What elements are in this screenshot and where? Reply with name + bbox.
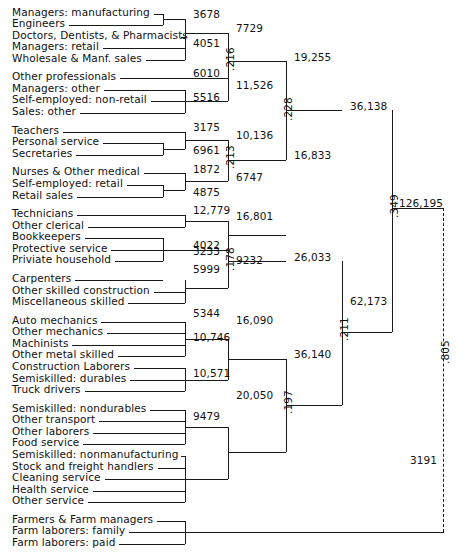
merge-out-9232 bbox=[185, 288, 228, 289]
root-bar-dashed bbox=[443, 208, 444, 532]
merge-out-7729 bbox=[185, 33, 228, 34]
node-value-26033: 26,033 bbox=[294, 252, 331, 263]
node-value-4875: 4875 bbox=[193, 187, 220, 198]
leaf-connector-line bbox=[83, 444, 185, 445]
node-value-20050: 20,050 bbox=[236, 390, 273, 401]
merge-out-36140 bbox=[286, 405, 342, 406]
correlation-805: .805 bbox=[440, 341, 451, 365]
bracket-out-9479 bbox=[185, 479, 228, 480]
leaf-label: Wholesale & Manf. sales bbox=[12, 53, 142, 64]
leaf-label: Farmers & Farm managers bbox=[12, 514, 153, 525]
leaf-label: Construction Laborers bbox=[12, 361, 130, 372]
leaf-connector-line bbox=[85, 391, 185, 392]
leaf-label: Auto mechanics bbox=[12, 315, 97, 326]
merge-out-10136 bbox=[185, 140, 228, 141]
leaf-connector-line bbox=[146, 60, 185, 61]
leaf-label: Miscellaneous skilled bbox=[12, 296, 124, 307]
node-value-3191: 3191 bbox=[410, 455, 437, 466]
node-value-5516: 5516 bbox=[193, 92, 220, 103]
leaf-connector-line bbox=[99, 421, 185, 422]
leaf-connector-line bbox=[128, 303, 185, 304]
leaf-connector-line bbox=[154, 292, 185, 293]
leaf-label: Technicians bbox=[12, 208, 73, 219]
node-value-126195: 126,195 bbox=[399, 198, 443, 209]
node-value-10136: 10,136 bbox=[236, 130, 273, 141]
leaf-label: Semiskilled: nonmanufacturing bbox=[12, 449, 178, 460]
leaf-label: Other service bbox=[12, 495, 84, 506]
leaf-label: Secretaries bbox=[12, 148, 72, 159]
leaf-connector-line bbox=[144, 173, 185, 174]
node-value-16090: 16,090 bbox=[236, 315, 273, 326]
leaf-connector-line bbox=[80, 113, 185, 114]
leaf-connector-line bbox=[104, 90, 185, 91]
correlation-197: .197 bbox=[283, 390, 294, 414]
bracket-out-6961 bbox=[163, 149, 185, 150]
leaf-connector-line bbox=[134, 368, 185, 369]
node-value-62173: 62,173 bbox=[350, 296, 387, 307]
leaf-label: Truck drivers bbox=[12, 384, 81, 395]
leaf-connector-line bbox=[111, 250, 163, 251]
node-value-5344: 5344 bbox=[193, 308, 220, 319]
leaf-label: Other mechanics bbox=[12, 326, 103, 337]
leaf-label: Teachers bbox=[12, 125, 59, 136]
leaf-label: Carpenters bbox=[12, 273, 71, 284]
bracket-out-10746 bbox=[185, 380, 228, 381]
leaf-connector-line bbox=[63, 132, 185, 133]
node-value-36138: 36,138 bbox=[350, 101, 387, 112]
leaf-connector-line bbox=[119, 544, 185, 545]
correlation-349: .349 bbox=[389, 194, 400, 218]
bracket-out-10571 bbox=[185, 427, 228, 428]
leaf-label: Other skilled construction bbox=[12, 285, 150, 296]
leaf-label: Self-employed: retail bbox=[12, 178, 123, 189]
leaf-connector-line bbox=[115, 261, 163, 262]
leaf-connector-line bbox=[158, 468, 185, 469]
leaf-connector-line bbox=[151, 101, 185, 102]
bracket-out-3191 bbox=[185, 532, 443, 533]
leaf-label: Self-employed: non-retail bbox=[12, 94, 147, 105]
correlation-216: .216 bbox=[225, 47, 236, 71]
leaf-label: Semiskilled: durables bbox=[12, 373, 126, 384]
leaf-label: Sales: other bbox=[12, 106, 76, 117]
leaf-connector-line bbox=[118, 356, 185, 357]
node-value-3175: 3175 bbox=[193, 122, 220, 133]
leaf-connector-line bbox=[130, 380, 185, 381]
leaf-connector-line bbox=[103, 48, 185, 49]
bracket-out-12779 bbox=[185, 221, 228, 222]
node-value-6747: 6747 bbox=[236, 172, 263, 183]
leaf-connector-line bbox=[101, 322, 185, 323]
correlation-211: .211 bbox=[339, 318, 350, 342]
leaf-connector-line bbox=[88, 502, 185, 503]
leaf-label: Bookkeepers bbox=[12, 231, 81, 242]
leaf-label: Personal service bbox=[12, 136, 99, 147]
leaf-connector-line bbox=[77, 215, 185, 216]
leaf-label: Retail sales bbox=[12, 190, 73, 201]
root-tick-bottom bbox=[438, 532, 444, 533]
leaf-connector-line bbox=[75, 280, 163, 281]
bracket-out-3678 bbox=[163, 19, 185, 20]
merge-out-16833 bbox=[228, 160, 286, 161]
leaf-connector-line bbox=[150, 410, 185, 411]
leaf-connector-line bbox=[129, 532, 185, 533]
merge-out-6747 bbox=[185, 181, 228, 182]
node-value-19255: 19,255 bbox=[294, 52, 331, 63]
correlation-178: .178 bbox=[225, 247, 236, 271]
leaf-label: Other metal skilled bbox=[12, 349, 114, 360]
leaf-label: Machinists bbox=[12, 338, 68, 349]
correlation-213: .213 bbox=[225, 145, 236, 169]
merge-bar-126195 bbox=[392, 110, 393, 332]
node-value-3233: 3233 bbox=[193, 246, 220, 257]
node-value-12779: 12,779 bbox=[193, 205, 230, 216]
leaf-label: Protective service bbox=[12, 243, 107, 254]
node-value-5999: 5999 bbox=[193, 264, 220, 275]
leaf-label: Stock and freight handlers bbox=[12, 461, 154, 472]
node-value-6961: 6961 bbox=[193, 145, 220, 156]
node-value-7729: 7729 bbox=[236, 23, 263, 34]
leaf-connector-line bbox=[107, 333, 185, 334]
leaf-connector-line bbox=[154, 14, 163, 15]
leaf-label: Managers: other bbox=[12, 83, 100, 94]
leaf-connector-line bbox=[85, 238, 163, 239]
leaf-connector-line bbox=[77, 197, 163, 198]
correlation-228: .228 bbox=[283, 97, 294, 121]
leaf-label: Engineers bbox=[12, 18, 65, 29]
leaf-label: Managers: retail bbox=[12, 41, 99, 52]
